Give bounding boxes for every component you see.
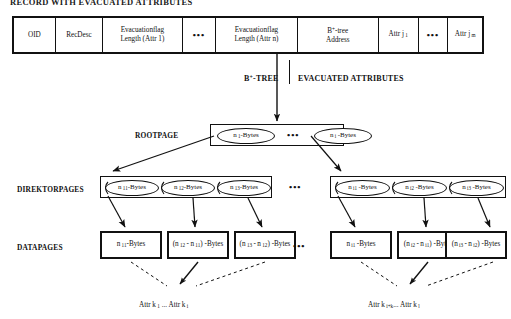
connector-direktor-to-data-r2 xyxy=(478,198,490,227)
connector-direktor-to-data-l1 xyxy=(193,198,195,227)
connector-data-to-label-l0 xyxy=(131,262,167,286)
connector-root-to-direktor-left xyxy=(113,136,214,171)
pointer-hook-l0 xyxy=(106,182,109,194)
connector-root-to-direktor-right xyxy=(311,136,341,171)
pointer-hook-r1 xyxy=(393,182,396,194)
connector-direktor-to-data-l0 xyxy=(108,196,125,227)
pointer-hook-r0 xyxy=(336,182,339,194)
connector-direktor-to-data-r0 xyxy=(338,196,355,227)
diagram-canvas: RECORD WITH EVACUATED ATTRIBUTES OID Rec… xyxy=(0,0,511,319)
pointer-hook-l2 xyxy=(218,182,221,194)
connector-data-to-label-l1 xyxy=(180,262,198,284)
connector-direktor-to-data-l2 xyxy=(248,198,262,227)
pointer-hook-l1 xyxy=(162,182,165,194)
connector-data-to-label-r1 xyxy=(410,262,428,284)
connector-data-to-label-l2 xyxy=(196,262,265,286)
connector-data-to-label-r0 xyxy=(361,262,397,286)
pointer-hook-r2 xyxy=(450,182,453,194)
connector-direktor-to-data-r1 xyxy=(424,198,426,227)
connector-data-to-label-r2 xyxy=(426,262,493,286)
connector-layer xyxy=(0,0,511,319)
